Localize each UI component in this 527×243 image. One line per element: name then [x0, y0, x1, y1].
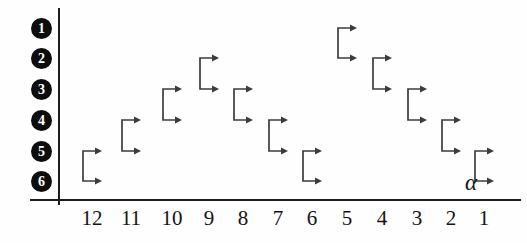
transition-mark-alpha-9 — [195, 49, 221, 98]
column-label-10: 10 — [162, 206, 183, 231]
column-label-11: 11 — [121, 206, 141, 231]
column-label-1: 1 — [479, 206, 490, 231]
transition-mark-alpha-8 — [229, 80, 255, 129]
column-label-8: 8 — [238, 206, 249, 231]
row-label-6: 6 — [31, 171, 52, 192]
column-label-12: 12 — [82, 206, 103, 231]
x-axis-name-label: α — [465, 170, 477, 196]
x-axis-line — [30, 199, 521, 201]
column-label-9: 9 — [204, 206, 215, 231]
transition-mark-alpha-12 — [78, 142, 104, 190]
column-label-5: 5 — [342, 206, 353, 231]
transition-mark-alpha-10 — [158, 80, 184, 129]
figure-container: 123456 121110987654321 α — [0, 0, 527, 243]
column-label-4: 4 — [377, 206, 388, 231]
row-label-4: 4 — [31, 110, 52, 131]
y-axis-line — [58, 8, 60, 205]
transition-mark-alpha-7 — [264, 111, 290, 160]
transition-mark-alpha-3 — [403, 80, 429, 129]
transition-mark-alpha-4 — [368, 49, 394, 98]
transition-mark-alpha-5 — [333, 19, 359, 67]
transition-mark-alpha-6 — [298, 142, 324, 190]
column-label-6: 6 — [307, 206, 318, 231]
transition-mark-alpha-2 — [437, 111, 463, 160]
column-label-3: 3 — [412, 206, 423, 231]
transition-mark-alpha-11 — [117, 111, 143, 160]
row-label-2: 2 — [31, 48, 52, 69]
column-label-2: 2 — [446, 206, 457, 231]
row-label-3: 3 — [31, 79, 52, 100]
row-label-1: 1 — [31, 18, 52, 39]
column-label-7: 7 — [273, 206, 284, 231]
row-label-5: 5 — [31, 141, 52, 162]
